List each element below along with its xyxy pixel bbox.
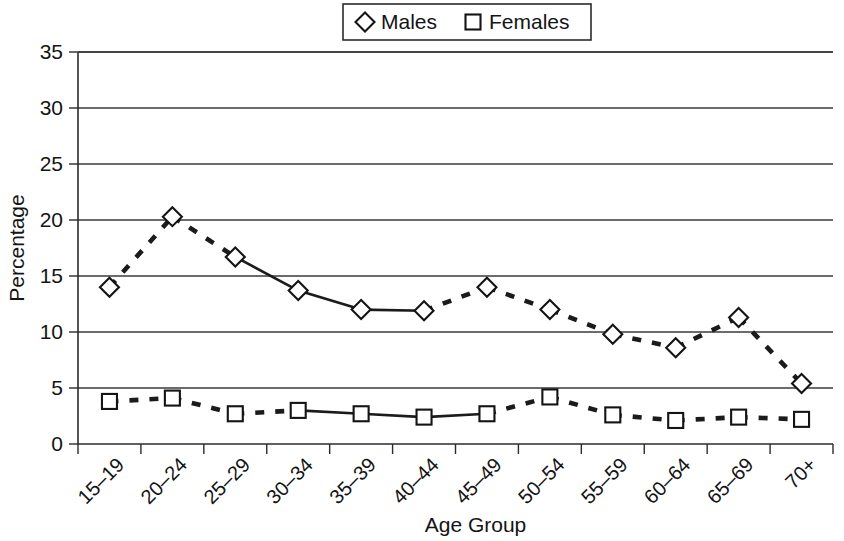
y-axis-tick-label: 15 (40, 264, 63, 287)
data-point-females (668, 413, 683, 428)
series-segment-females (676, 417, 739, 420)
x-axis-tick-label: 20–24 (136, 453, 191, 508)
x-axis-ticks-group: 15–1920–2425–2930–3435–3940–4445–4950–54… (73, 444, 833, 508)
data-point-females (102, 394, 117, 409)
data-point-males (729, 308, 748, 327)
series-segment-males (298, 291, 361, 310)
series-segment-females (109, 398, 172, 401)
data-point-females (354, 406, 369, 421)
line-chart: 05101520253035 15–1920–2425–2930–3435–39… (0, 0, 844, 541)
x-axis-tick-label: 30–34 (262, 453, 317, 508)
data-point-females (605, 407, 620, 422)
series-segment-males (424, 287, 487, 311)
series-segment-females (487, 397, 550, 414)
series-segment-females (739, 417, 802, 419)
data-point-females (165, 391, 180, 406)
series-segment-females (424, 414, 487, 417)
legend-marker-square (466, 15, 481, 30)
data-point-males (666, 338, 685, 357)
y-axis-tick-label: 10 (40, 320, 63, 343)
chart-figure: 05101520253035 15–1920–2425–2930–3435–39… (0, 0, 844, 541)
series-segment-males (235, 257, 298, 291)
data-point-males (289, 281, 308, 300)
x-axis-tick-label: 60–64 (640, 453, 695, 508)
y-axis-ticks-group: 05101520253035 (40, 40, 78, 455)
x-axis-tick-label: 45–49 (451, 453, 506, 508)
data-point-males (352, 300, 371, 319)
series-segment-males (487, 287, 550, 309)
data-point-males (415, 301, 434, 320)
data-point-males (540, 300, 559, 319)
data-point-females (794, 412, 809, 427)
data-point-females (542, 389, 557, 404)
series-segment-females (298, 410, 361, 413)
gridlines-group (78, 52, 833, 388)
data-point-females (417, 410, 432, 425)
data-point-females (731, 410, 746, 425)
x-axis-tick-label: 40–44 (388, 453, 443, 508)
series-segment-females (235, 410, 298, 413)
data-series-group (109, 217, 801, 421)
x-axis-tick-label: 25–29 (199, 453, 254, 508)
x-axis-tick-label: 35–39 (325, 453, 380, 508)
data-point-males (477, 278, 496, 297)
x-axis-tick-label: 55–59 (577, 453, 632, 508)
y-axis-tick-label: 5 (51, 376, 63, 399)
data-point-females (479, 406, 494, 421)
series-segment-males (613, 334, 676, 347)
series-segment-males (739, 317, 802, 383)
x-axis-tick-label: 50–54 (514, 453, 569, 508)
x-axis-tick-label: 70+ (781, 453, 821, 493)
y-axis-tick-label: 20 (40, 208, 63, 231)
x-axis-tick-label: 15–19 (73, 453, 128, 508)
y-axis-tick-label: 25 (40, 152, 63, 175)
series-segment-females (172, 398, 235, 414)
series-segment-females (613, 415, 676, 421)
y-axis-tick-label: 35 (40, 40, 63, 63)
axes-group (78, 52, 833, 444)
x-axis-tick-label: 65–69 (703, 453, 758, 508)
y-axis-title: Percentage (5, 194, 28, 301)
legend-label-males: Males (381, 10, 437, 33)
chart-legend[interactable]: MalesFemales (343, 4, 591, 40)
series-segment-females (361, 414, 424, 417)
data-point-males (603, 325, 622, 344)
x-axis-title: Age Group (425, 513, 527, 536)
data-point-females (291, 403, 306, 418)
data-point-females (228, 406, 243, 421)
y-axis-tick-label: 0 (51, 432, 63, 455)
series-segment-males (172, 217, 235, 257)
legend-label-females: Females (489, 10, 570, 33)
series-segment-females (550, 397, 613, 415)
data-point-males (100, 278, 119, 297)
y-axis-tick-label: 30 (40, 96, 63, 119)
series-segment-males (550, 310, 613, 335)
